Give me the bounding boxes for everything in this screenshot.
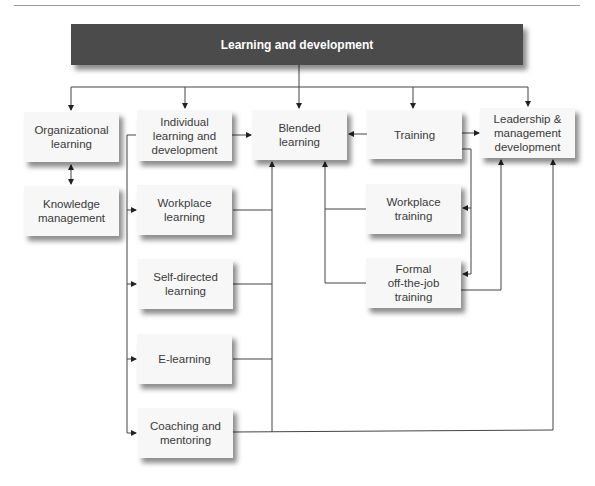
node-workplace-training: Workplace training	[366, 184, 461, 234]
node-knowledge-management: Knowledge management	[24, 186, 119, 236]
node-training: Training	[367, 110, 462, 159]
node-organizational-learning: Organizational learning	[24, 112, 119, 162]
node-blended-learning: Blended learning	[252, 110, 347, 160]
connector-lines	[0, 0, 595, 486]
node-self-directed-learning: Self-directed learning	[138, 259, 233, 309]
node-e-learning: E-learning	[137, 334, 232, 384]
node-individual-learning: Individual learning and development	[137, 110, 232, 161]
root-node-learning-and-development: Learning and development	[71, 24, 523, 65]
node-coaching-and-mentoring: Coaching and mentoring	[138, 408, 233, 458]
node-workplace-learning: Workplace learning	[137, 185, 232, 235]
root-node-label: Learning and development	[221, 38, 374, 52]
node-formal-off-the-job-training: Formal off-the-job training	[366, 258, 461, 308]
node-leadership-management-development: Leadership & management development	[480, 108, 575, 158]
